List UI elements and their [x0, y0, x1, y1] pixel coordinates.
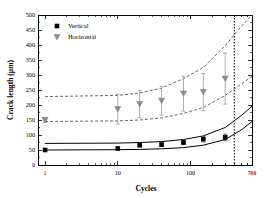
data-point-horizontal: [200, 90, 206, 96]
y-tick-label: 350: [26, 56, 35, 63]
x-axis-end-label: 700: [248, 170, 257, 176]
chart-canvas: 050100150200250300350400450500 110100 Ve…: [0, 0, 272, 198]
legend-marker-horizontal: [54, 34, 60, 40]
legend-marker-vertical: [55, 24, 60, 29]
data-point-horizontal: [137, 102, 143, 108]
data-point-vertical: [159, 142, 164, 147]
vertical-lower-fit: [45, 122, 252, 151]
crack-length-figure: 050100150200250300350400450500 110100 Ve…: [0, 0, 272, 198]
data-point-vertical: [223, 135, 228, 140]
data-point-vertical: [115, 146, 120, 151]
data-markers: [42, 76, 228, 152]
x-axis-tick-labels: 110100: [44, 169, 196, 176]
horizontal-lower-band: [45, 77, 252, 122]
data-point-vertical: [43, 148, 48, 153]
y-axis-title: Crack length (μm): [6, 60, 15, 120]
data-point-horizontal: [158, 98, 164, 104]
data-point-horizontal: [115, 107, 121, 113]
y-tick-label: 0: [32, 161, 35, 168]
x-tick-label: 10: [115, 169, 121, 176]
y-tick-label: 150: [26, 116, 35, 123]
vertical-upper-fit: [45, 106, 252, 143]
y-tick-label: 250: [26, 86, 35, 93]
y-tick-label: 100: [26, 131, 35, 138]
x-axis-title: Cycles: [135, 184, 156, 193]
data-point-vertical: [137, 143, 142, 148]
y-tick-label: 500: [26, 11, 35, 18]
legend-label: Vertical: [68, 22, 89, 29]
y-tick-label: 50: [29, 146, 35, 153]
y-tick-label: 400: [26, 41, 35, 48]
y-tick-label: 300: [26, 71, 35, 78]
y-axis-tick-labels: 050100150200250300350400450500: [26, 11, 35, 168]
data-point-horizontal: [180, 91, 186, 97]
data-point-horizontal: [42, 117, 48, 123]
legend-label: Horizontal: [68, 33, 96, 40]
data-point-vertical: [181, 140, 186, 145]
x-tick-label: 1: [44, 169, 47, 176]
data-point-vertical: [201, 137, 206, 142]
y-tick-label: 450: [26, 26, 35, 33]
chart-legend: VerticalHorizontal: [54, 22, 96, 40]
y-tick-label: 200: [26, 101, 35, 108]
data-point-horizontal: [222, 76, 228, 82]
x-tick-label: 100: [186, 169, 195, 176]
